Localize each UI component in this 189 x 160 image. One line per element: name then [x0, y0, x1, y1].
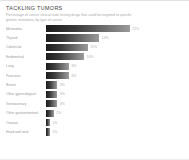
bar	[46, 119, 50, 126]
bar-track: 6%	[46, 63, 185, 70]
bar	[46, 81, 57, 88]
bar-category-label: Thyroid	[6, 36, 46, 40]
bar-chart: Melanoma22%Thyroid14%Colorectal11%Endome…	[0, 24, 189, 137]
bar	[46, 34, 99, 41]
bar-row: Ovarian1%	[6, 118, 185, 127]
bar-value-label: 14%	[102, 36, 109, 40]
bar	[46, 44, 88, 51]
bar-value-label: 1%	[52, 130, 57, 134]
bar-track: 6%	[46, 72, 185, 79]
bar	[46, 25, 130, 32]
bar-value-label: 22%	[132, 27, 139, 31]
bar-row: Other gynecological3%	[6, 90, 185, 99]
bar-value-label: 10%	[87, 55, 94, 59]
bar-category-label: Pancreas	[6, 74, 46, 78]
bar-category-label: Melanoma	[6, 27, 46, 31]
bar-value-label: 3%	[60, 83, 65, 87]
bar-row: Head and neck1%	[6, 127, 185, 136]
bar-track: 10%	[46, 53, 185, 60]
bar-category-label: Other gastrointestinal	[6, 111, 46, 115]
bar-row: Lung6%	[6, 62, 185, 71]
bar-track: 2%	[46, 110, 185, 117]
bar-value-label: 3%	[60, 92, 65, 96]
bar-track: 3%	[46, 100, 185, 107]
bar-row: Colorectal11%	[6, 43, 185, 52]
bar-category-label: Head and neck	[6, 130, 46, 134]
bar-value-label: 1%	[52, 121, 57, 125]
bar-row: Thyroid14%	[6, 33, 185, 42]
bar	[46, 53, 84, 60]
bar-category-label: Lung	[6, 64, 46, 68]
bar-category-label: Ovarian	[6, 121, 46, 125]
bar-category-label: Genitourinary	[6, 102, 46, 106]
bar-track: 3%	[46, 91, 185, 98]
bar-track: 1%	[46, 119, 185, 126]
bar-row: Pancreas6%	[6, 71, 185, 80]
chart-subtitle: Percentage of cancer clinical trials tes…	[6, 13, 138, 22]
bar	[46, 100, 57, 107]
chart-header: TACKLING TUMORS Percentage of cancer cli…	[0, 1, 189, 22]
bar	[46, 110, 54, 117]
bar-value-label: 3%	[60, 102, 65, 106]
bar-row: Genitourinary3%	[6, 99, 185, 108]
chart-card: TACKLING TUMORS Percentage of cancer cli…	[0, 0, 189, 160]
bar-value-label: 11%	[90, 45, 97, 49]
bar-track: 11%	[46, 44, 185, 51]
bar-track: 1%	[46, 128, 185, 135]
page-title: TACKLING TUMORS	[6, 5, 183, 11]
bar-value-label: 6%	[71, 74, 76, 78]
bar-category-label: Endometrial	[6, 55, 46, 59]
bar-track: 3%	[46, 81, 185, 88]
bar-category-label: Colorectal	[6, 45, 46, 49]
bar	[46, 91, 57, 98]
bar-category-label: Breast	[6, 83, 46, 87]
bar	[46, 63, 69, 70]
bar-track: 14%	[46, 34, 185, 41]
bar-row: Melanoma22%	[6, 24, 185, 33]
bar-row: Breast3%	[6, 80, 185, 89]
bar-track: 22%	[46, 25, 185, 32]
bar-value-label: 6%	[71, 64, 76, 68]
bar-row: Other gastrointestinal2%	[6, 109, 185, 118]
bar	[46, 72, 69, 79]
bar-value-label: 2%	[56, 111, 61, 115]
bar	[46, 128, 50, 135]
bar-row: Endometrial10%	[6, 52, 185, 61]
bar-category-label: Other gynecological	[6, 92, 46, 96]
